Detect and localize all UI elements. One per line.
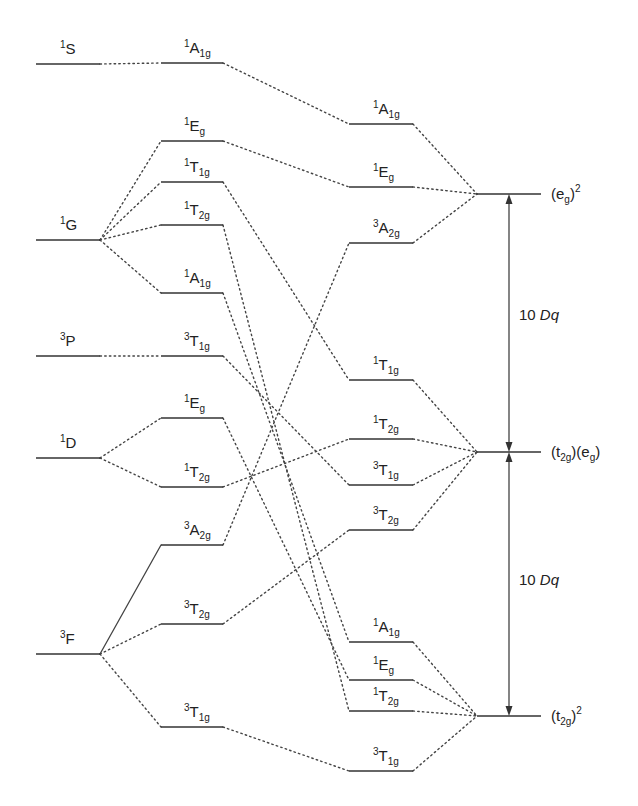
arrow-up-icon	[506, 194, 513, 204]
connector-lines	[100, 63, 477, 771]
label-s_1T2g_c: 1T2g	[373, 686, 399, 707]
connector-s_1A1g_a-to-c_eg2	[413, 124, 477, 194]
energy-levels	[36, 63, 541, 771]
connector-s_1Eg_c-to-c_t2g2	[413, 680, 477, 716]
connector-fi_1D-to-w_1Eg_D	[100, 418, 161, 458]
arrow-up-icon	[506, 452, 513, 462]
label-s_1Eg_c: 1Eg	[373, 655, 394, 676]
connector-s_3A2g-to-c_eg2	[413, 194, 477, 243]
label-s_1A1g_c: 1A1g	[373, 617, 400, 638]
connector-fi_3F-to-w_3T2g_F	[100, 624, 161, 654]
connector-w_1T1g_G-to-s_1T1g	[223, 182, 349, 380]
label-w_3T2g_F: 3T2g	[184, 599, 210, 620]
connector-s_3T1g_b-to-c_t2geg	[413, 452, 477, 485]
connector-w_1Eg_G-to-s_1Eg_a	[223, 141, 349, 187]
connector-s_1Eg_a-to-c_eg2	[413, 187, 477, 194]
label-s_3A2g: 3A2g	[373, 218, 400, 239]
connector-fi_1S-to-w_1A1g_S	[100, 63, 161, 64]
label-s_1T1g: 1T1g	[373, 355, 399, 376]
label-s_3T2g: 3T2g	[373, 505, 399, 526]
label-s_1A1g_a: 1A1g	[373, 99, 400, 120]
connector-s_1A1g_c-to-c_t2g2	[413, 642, 477, 716]
connector-fi_3F-to-w_3T1g_F	[100, 654, 161, 727]
connector-s_3T2g-to-c_t2geg	[413, 452, 477, 530]
state-labels: 1S1G3P1D3F1A1g1Eg1T1g1T2g1A1g3T1g1Eg1T2g…	[60, 38, 600, 767]
label-w_1T1g_G: 1T1g	[184, 157, 210, 178]
correlation-diagram: 1S1G3P1D3F1A1g1Eg1T1g1T2g1A1g3T1g1Eg1T2g…	[0, 0, 638, 806]
label-fi_3F: 3F	[60, 629, 75, 647]
label-fi_3P: 3P	[60, 331, 76, 349]
connector-fi_3F-to-w_3A2g_F	[100, 545, 161, 654]
connector-w_3T1g_F-to-s_3T1g_c	[223, 727, 349, 771]
label-w_1Eg_G: 1Eg	[184, 116, 205, 137]
label-s_3T1g_c: 3T1g	[373, 746, 399, 767]
arrow-down-icon	[506, 442, 513, 452]
connector-fi_1G-to-w_1T2g_G	[100, 225, 161, 240]
connector-w_1T2g_D-to-s_1T2g_b	[223, 439, 349, 487]
connector-w_3A2g_F-to-s_3A2g	[223, 243, 349, 545]
label-w_1A1g_S: 1A1g	[184, 38, 211, 59]
label-w_1T2g_G: 1T2g	[184, 200, 210, 221]
label-w_1A1g_G: 1A1g	[184, 268, 211, 289]
config-label-c_eg2: (eg)2	[551, 183, 581, 205]
label-fi_1G: 1G	[60, 215, 77, 233]
label-w_3A2g_F: 3A2g	[184, 520, 211, 541]
connector-w_1A1g_S-to-s_1A1g_a	[223, 63, 349, 124]
label-fi_1D: 1D	[60, 433, 77, 451]
label-s_3T1g_b: 3T1g	[373, 460, 399, 481]
config-label-c_t2g2: (t2g)2	[551, 705, 582, 727]
label-w_3T1g_P: 3T1g	[184, 331, 210, 352]
connector-s_1T2g_c-to-c_t2g2	[413, 711, 477, 716]
config-label-c_t2geg: (t2g)(eg)	[551, 443, 600, 463]
label-w_1Eg_D: 1Eg	[184, 393, 205, 414]
label-s_1T2g_b: 1T2g	[373, 414, 399, 435]
connector-w_1T2g_G-to-s_1T2g_c	[223, 225, 349, 711]
label-w_1T2g_D: 1T2g	[184, 462, 210, 483]
gap-label-gap_upper: 10 Dq	[519, 306, 560, 323]
connector-s_3T1g_c-to-c_t2g2	[413, 716, 477, 771]
connector-fi_1D-to-w_1T2g_D	[100, 458, 161, 487]
label-fi_1S: 1S	[60, 39, 76, 57]
label-w_3T1g_F: 3T1g	[184, 702, 210, 723]
label-s_1Eg_a: 1Eg	[373, 162, 394, 183]
connector-w_3T2g_F-to-s_3T2g	[223, 530, 349, 624]
gap-label-gap_lower: 10 Dq	[519, 571, 560, 588]
connector-fi_1G-to-w_1A1g_G	[100, 240, 161, 293]
arrow-down-icon	[506, 706, 513, 716]
